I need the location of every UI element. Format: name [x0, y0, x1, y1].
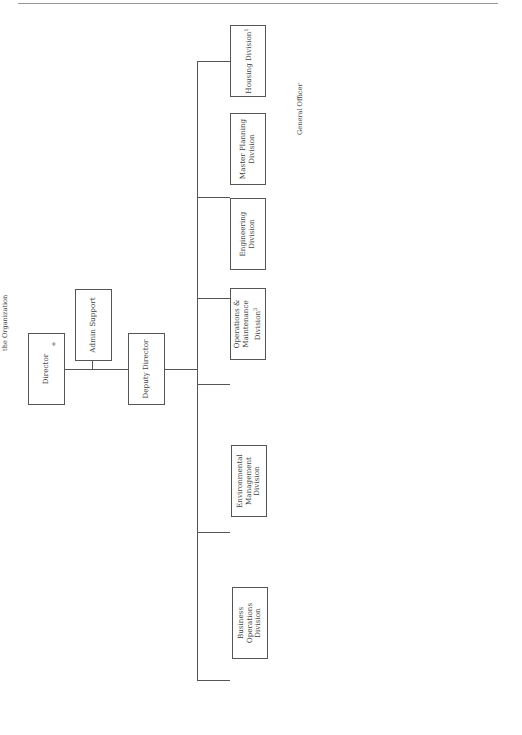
connector	[165, 369, 197, 370]
business-operations-label: Business Operations Division	[237, 590, 263, 656]
connector	[197, 197, 230, 198]
environmental-division-box: Environmental Management Division	[231, 445, 267, 517]
connector	[197, 680, 230, 681]
deputy-director-box: Deputy Director	[128, 333, 165, 405]
master-planning-division-box: Master Planning Division	[230, 113, 266, 185]
connector	[197, 298, 230, 299]
director-duty: the Organization	[0, 295, 10, 357]
engineering-division-box: Engineering Division	[230, 198, 266, 270]
admin-support-label: Admin Support	[89, 297, 98, 352]
admin-support-box: Admin Support	[75, 289, 112, 361]
housing-division-box: Housing Division1	[230, 25, 266, 97]
connector	[65, 369, 128, 370]
director-box: Director	[28, 333, 65, 405]
environmental-label: Environmental Management Division	[236, 448, 262, 514]
connector	[197, 61, 230, 62]
connector	[92, 361, 93, 370]
director-label: Director	[42, 354, 51, 384]
master-planning-label: Master Planning Division	[239, 116, 256, 182]
business-operations-division-box: Business Operations Division	[232, 587, 268, 659]
duty-item: General Officer	[295, 83, 305, 135]
facility-manager-marker: +	[50, 341, 58, 347]
deputy-director-label: Deputy Director	[142, 340, 151, 399]
housing-division-label: Housing Division1	[242, 28, 254, 93]
housing-duties: General Officer	[275, 83, 325, 135]
operations-label: Operations & Maintenance Division3	[233, 291, 262, 357]
division-bus	[197, 61, 198, 681]
director-duties-text: - Management of the Organization	[0, 295, 10, 357]
operations-division-box: Operations & Maintenance Division3	[230, 288, 266, 360]
engineering-label: Engineering Division	[239, 201, 256, 267]
org-chart: Director + - Management of the Organizat…	[0, 0, 522, 735]
connector	[197, 532, 230, 533]
connector	[197, 384, 230, 385]
